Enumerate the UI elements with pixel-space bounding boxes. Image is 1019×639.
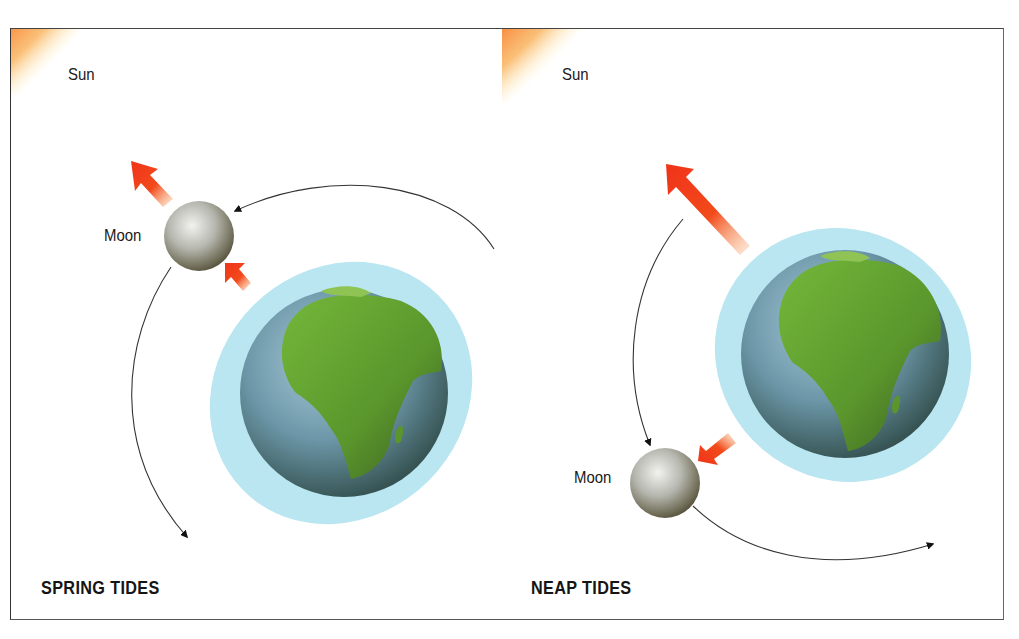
spring-tides-panel: Sun Moon SPRING TIDES [10,28,503,620]
panel-title-neap-tides: NEAP TIDES [531,578,632,599]
orbit-arc-top [235,185,494,249]
sun-icon [11,29,271,291]
orbit-arc-bottom [132,267,187,537]
moon-icon [630,448,700,518]
moon-icon [164,201,234,271]
moon-label: Moon [574,468,611,488]
earth-icon [741,250,949,458]
orbit-arc-left [633,219,683,445]
force-arrow-earth-to-moon [225,263,251,291]
moon-label: Moon [104,226,141,246]
panel-title-spring-tides: SPRING TIDES [41,578,160,599]
sun-label: Sun [562,65,589,85]
neap-tides-scene [502,29,1004,620]
force-arrow-earth-to-moon [698,433,736,465]
spring-tides-scene [11,29,503,620]
force-arrow-earth-to-sun [666,164,750,255]
sun-label: Sun [68,65,95,85]
neap-tides-panel: Sun Moon NEAP TIDES [502,28,1004,620]
orbit-arc-bottom [693,506,933,560]
